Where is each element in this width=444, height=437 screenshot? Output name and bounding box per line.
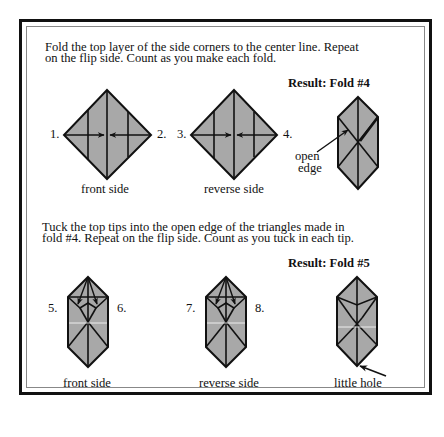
fold-5-result-diagram bbox=[337, 277, 386, 376]
fold-4-result-diagram bbox=[317, 97, 378, 189]
reverse-side-diamond-diagram bbox=[191, 90, 277, 179]
fold-5-reverse-diagram bbox=[206, 277, 246, 367]
fold-5-front-diagram bbox=[68, 277, 108, 367]
front-side-diamond-diagram bbox=[64, 90, 151, 179]
